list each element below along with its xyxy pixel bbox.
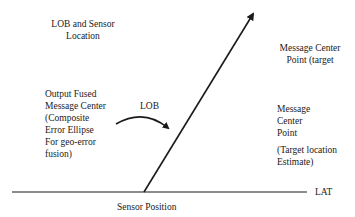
lob-arrow [144,14,253,192]
lob-label: LOB [140,100,159,112]
lob-sensor-location-label: LOB and Sensor Location [38,18,128,42]
sensor-position-label: Sensor Position [117,201,176,213]
message-center-point-label: Message Center Point [277,103,310,139]
target-location-estimate-label: (Target location Estimate) [277,144,337,168]
output-fused-label: Output Fused Message Center (Composite E… [45,88,125,160]
message-center-target-label: Message Center Point (target [270,42,350,66]
lob-diagram: LOB and Sensor Location Message Center P… [0,0,355,217]
lat-label: LAT [315,186,332,198]
